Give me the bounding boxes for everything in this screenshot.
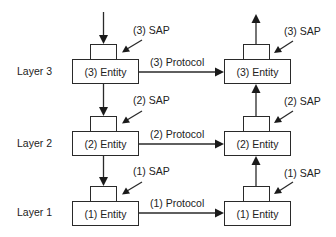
left-entity-2-label: (2) Entity [84, 138, 127, 150]
left-incoming-arrow [99, 12, 108, 44]
right-sap-2-pointer-arrow [274, 111, 293, 123]
right-arrow-2-to-3 [252, 84, 261, 116]
layer-3: Layer 3 (3) Entity (3) SAP (3) Protocol … [17, 12, 321, 84]
right-sap-2-label: (2) SAP [284, 95, 321, 107]
layer-2-label: Layer 2 [17, 137, 52, 149]
layer-3-label: Layer 3 [17, 65, 52, 77]
left-entity-1-label: (1) Entity [84, 208, 127, 220]
left-sap-2-pointer-arrow [122, 111, 142, 124]
left-arrow-3-to-2 [99, 84, 108, 116]
layer-2: Layer 2 (2) Entity (2) SAP (2) Protocol … [17, 94, 321, 156]
protocol-3-arrow-head [215, 68, 224, 77]
protocol-2-arrow-head [215, 140, 224, 149]
right-arrow-1-to-2 [252, 156, 261, 186]
right-outgoing-arrow [252, 14, 261, 44]
left-sap-1-label: (1) SAP [133, 165, 170, 177]
protocol-1-arrow-head [215, 209, 224, 218]
left-sap-2-box [91, 117, 117, 132]
left-sap-1-pointer-arrow [122, 182, 142, 195]
right-sap-1-label: (1) SAP [284, 167, 321, 179]
right-sap-3-box [244, 45, 270, 60]
layer-1-label: Layer 1 [17, 206, 52, 218]
protocol-2-label: (2) Protocol [150, 128, 204, 140]
left-sap-3-label: (3) SAP [133, 24, 170, 36]
right-entity-2-label: (2) Entity [236, 138, 279, 150]
right-sap-3-label: (3) SAP [284, 25, 321, 37]
protocol-3-label: (3) Protocol [150, 56, 204, 68]
left-arrow-2-to-1 [99, 156, 108, 186]
layered-protocol-diagram: Layer 3 (3) Entity (3) SAP (3) Protocol … [0, 0, 336, 237]
left-sap-2-label: (2) SAP [133, 94, 170, 106]
right-sap-1-pointer-arrow [274, 182, 293, 194]
protocol-1-label: (1) Protocol [150, 197, 204, 209]
right-entity-3-label: (3) Entity [236, 66, 279, 78]
left-sap-1-box [91, 187, 117, 202]
left-sap-3-box [91, 45, 117, 60]
left-sap-3-pointer-arrow [122, 40, 142, 53]
right-sap-3-pointer-arrow [274, 41, 293, 53]
right-sap-1-box [244, 187, 270, 202]
right-entity-1-label: (1) Entity [236, 208, 279, 220]
right-sap-2-box [244, 117, 270, 132]
left-entity-3-label: (3) Entity [84, 66, 127, 78]
layer-1: Layer 1 (1) Entity (1) SAP (1) Protocol … [17, 165, 321, 226]
